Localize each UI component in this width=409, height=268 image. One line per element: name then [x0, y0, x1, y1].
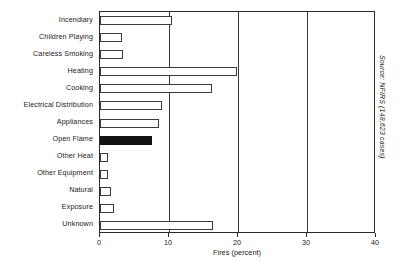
x-tick: [168, 233, 169, 237]
bar: [100, 119, 159, 128]
source-note: Source: NFIRS (148,623 cases): [379, 55, 386, 159]
fire-cause-bar-chart: IncendiaryChildren PlayingCareless Smoki…: [0, 0, 409, 268]
x-tick-label: 40: [371, 238, 379, 247]
x-axis-title: Fires (percent): [99, 248, 375, 257]
bar: [100, 33, 122, 42]
bar: [100, 187, 111, 196]
x-tick: [375, 233, 376, 237]
x-tick-label: 0: [97, 238, 101, 247]
category-label: Other Heat: [0, 152, 93, 160]
category-label: Cooking: [0, 84, 93, 92]
category-axis-labels: IncendiaryChildren PlayingCareless Smoki…: [0, 12, 93, 232]
x-tick: [99, 233, 100, 237]
bar: [100, 153, 108, 162]
x-tick: [237, 233, 238, 237]
bar: [100, 84, 212, 93]
category-label: Electrical Distribution: [0, 101, 93, 109]
bar: [100, 170, 108, 179]
x-tick-label: 30: [302, 238, 310, 247]
plot-area: [99, 11, 375, 233]
category-label: Open Flame: [0, 135, 93, 143]
bar: [100, 50, 123, 59]
category-label: Natural: [0, 186, 93, 194]
category-label: Other Equipment: [0, 169, 93, 177]
gridline-20: [238, 12, 239, 232]
category-label: Careless Smoking: [0, 50, 93, 58]
category-label: Incendiary: [0, 16, 93, 24]
category-label: Appliances: [0, 118, 93, 126]
category-label: Heating: [0, 67, 93, 75]
bar: [100, 67, 237, 76]
x-tick-label: 10: [164, 238, 172, 247]
x-tick-label: 20: [233, 238, 241, 247]
gridline-30: [307, 12, 308, 232]
bar: [100, 136, 152, 145]
category-label: Exposure: [0, 203, 93, 211]
bar: [100, 204, 114, 213]
bar: [100, 221, 213, 230]
gridline-10: [169, 12, 170, 232]
category-label: Children Playing: [0, 33, 93, 41]
x-tick: [306, 233, 307, 237]
bar: [100, 101, 162, 110]
bar: [100, 16, 172, 25]
category-label: Unknown: [0, 220, 93, 228]
